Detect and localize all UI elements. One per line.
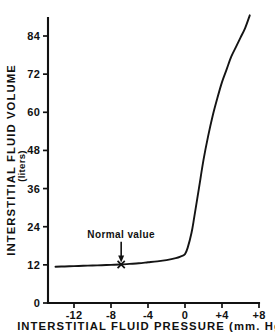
y-tick-label: 36 (27, 183, 40, 195)
y-tick-label: 60 (27, 106, 40, 118)
annotation-label: Normal value (87, 229, 155, 240)
interstitial-fluid-chart: 012243648607284 -12-8-40+4+8 Normal valu… (0, 0, 275, 336)
y-tick-label: 12 (27, 259, 40, 271)
chart-figure: 012243648607284 -12-8-40+4+8 Normal valu… (0, 0, 275, 336)
y-axis-units: (liters) (16, 150, 27, 182)
y-tick-label: 0 (34, 297, 40, 309)
y-tick-label: 24 (27, 221, 40, 233)
y-tick-label: 72 (27, 68, 40, 80)
y-tick-label: 48 (27, 144, 40, 156)
y-tick-label: 84 (27, 30, 40, 42)
x-axis-title: INTERSTITIAL FLUID PRESSURE (mm. Hg) (17, 320, 275, 332)
